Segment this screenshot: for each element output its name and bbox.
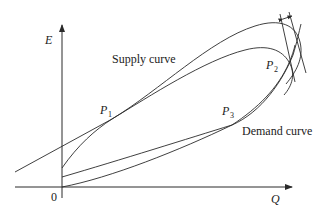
- supply-demand-diagram: E Q 0 Supply curve Demand curve P 1 P 2 …: [0, 0, 322, 212]
- point-p1-label: P 1: [99, 103, 112, 119]
- svg-text:2: 2: [274, 65, 278, 74]
- svg-text:P: P: [221, 104, 230, 118]
- x-axis-label: Q: [271, 192, 280, 206]
- shift-indicator: [280, 12, 306, 82]
- svg-text:P: P: [265, 58, 274, 72]
- demand-curve-label: Demand curve: [242, 124, 312, 138]
- demand-curve-upper: [62, 24, 301, 177]
- supply-curve-outer: [15, 23, 301, 172]
- origin-label: 0: [51, 190, 57, 204]
- svg-text:P: P: [99, 103, 108, 117]
- point-p2-label: P 2: [265, 58, 278, 74]
- svg-text:3: 3: [230, 111, 234, 120]
- demand-curve-lower: [62, 45, 295, 187]
- svg-text:1: 1: [108, 110, 112, 119]
- point-p3-label: P 3: [221, 104, 234, 120]
- y-axis-label: E: [44, 33, 53, 47]
- supply-curve-label: Supply curve: [112, 52, 176, 66]
